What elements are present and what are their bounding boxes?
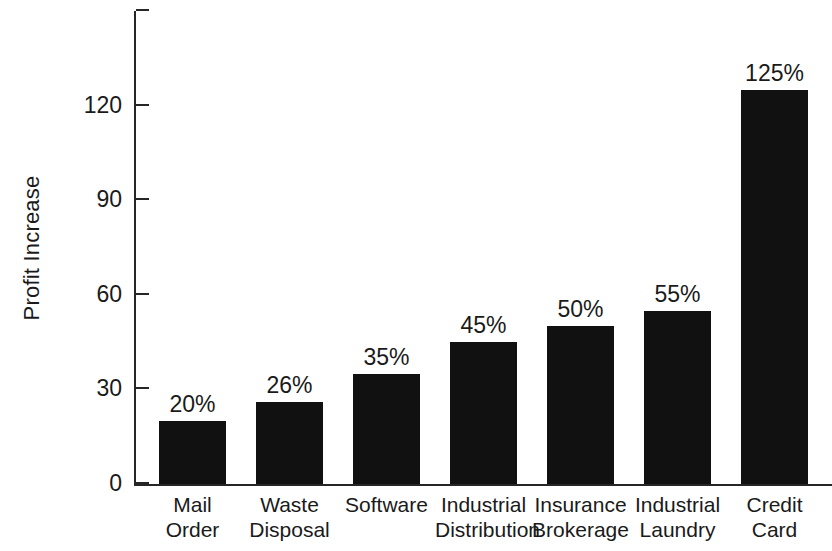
bar[interactable] [644,311,711,484]
category-label-line2: Distribution [435,517,532,542]
bar-group[interactable]: 35% [353,340,420,484]
x-axis-category-label: Software [338,492,435,517]
y-axis-tick-label: 0 [109,470,122,497]
bar-value-label: 125% [745,60,804,87]
category-label-line2: Disposal [241,517,338,542]
category-label-line1: Software [338,492,435,517]
x-axis-category-label: InsuranceBrokerage [532,492,629,542]
x-axis-category-label: MailOrder [144,492,241,542]
category-label-line1: Insurance [532,492,629,517]
bar-chart: Profit Increase 0306090120 20%26%35%45%5… [0,0,832,551]
x-axis-category-label: IndustrialDistribution [435,492,532,542]
bar-group[interactable]: 26% [256,368,323,484]
y-axis-tick-label: 30 [96,375,122,402]
y-axis-title-text: Profit Increase [19,175,45,320]
bar[interactable] [547,326,614,484]
category-label-line1: Mail [144,492,241,517]
x-axis-category-label: CreditCard [726,492,823,542]
y-axis-tick-label: 90 [96,186,122,213]
bar-value-label: 55% [654,281,700,308]
category-label-line2: Card [726,517,823,542]
bar-value-label: 26% [266,372,312,399]
x-axis-category-label: IndustrialLaundry [629,492,726,542]
bar[interactable] [353,374,420,484]
plot-area: 0306090120 20%26%35%45%50%55%125% [134,11,832,486]
bar-value-label: 45% [460,312,506,339]
bar-group[interactable]: 20% [159,387,226,484]
bar-value-label: 20% [169,391,215,418]
y-axis-tick-label: 60 [96,280,122,307]
x-axis-category-label: WasteDisposal [241,492,338,542]
category-label-line1: Industrial [629,492,726,517]
y-axis-tick-label: 120 [84,91,122,118]
category-label-line2: Laundry [629,517,726,542]
x-axis-category-labels: MailOrderWasteDisposalSoftwareIndustrial… [134,492,832,551]
bar[interactable] [450,342,517,484]
bars-layer: 20%26%35%45%50%55%125% [134,11,832,486]
category-label-line2: Brokerage [532,517,629,542]
category-label-line1: Industrial [435,492,532,517]
bar[interactable] [159,421,226,484]
bar-value-label: 50% [557,296,603,323]
bar[interactable] [741,90,808,484]
bar-group[interactable]: 125% [741,56,808,484]
bar-group[interactable]: 50% [547,292,614,484]
bar-value-label: 35% [363,344,409,371]
bar[interactable] [256,402,323,484]
bar-group[interactable]: 55% [644,277,711,484]
category-label-line1: Waste [241,492,338,517]
bar-group[interactable]: 45% [450,308,517,484]
y-axis-title: Profit Increase [4,0,60,495]
category-label-line2: Order [144,517,241,542]
category-label-line1: Credit [726,492,823,517]
